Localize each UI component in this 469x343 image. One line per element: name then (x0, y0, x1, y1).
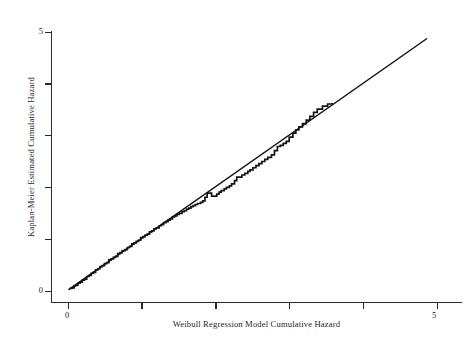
chart-plot-area (0, 0, 469, 343)
series-reference-line (69, 39, 427, 290)
chart-container: 5 0 0 5 Kaplan-Meier Estimated Cumulativ… (0, 0, 469, 343)
